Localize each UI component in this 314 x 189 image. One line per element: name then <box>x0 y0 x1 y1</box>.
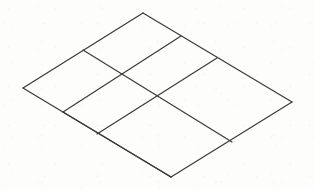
figure-canvas <box>0 0 314 189</box>
isometric-grid-drawing <box>0 0 314 189</box>
boundary-upper-right <box>143 13 292 102</box>
boundary-lower-right <box>171 102 292 177</box>
grid-line-group <box>23 13 292 177</box>
